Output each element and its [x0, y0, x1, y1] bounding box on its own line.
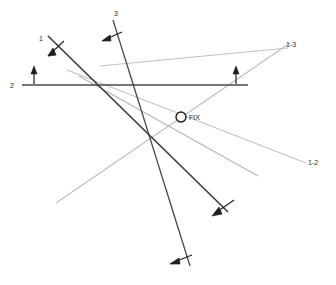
- diagram-svg: 1 2 3 1-3 1-2 FIX: [0, 0, 336, 285]
- line-lop-1-2-advanced: [79, 76, 258, 176]
- arrow-lop-1-end-icon: [212, 200, 234, 216]
- label-lop-1-2: 1-2: [308, 159, 318, 166]
- arrow-lop-2-left-icon: [31, 66, 37, 84]
- lines-group: [22, 20, 306, 266]
- label-lop-2: 2: [10, 82, 14, 89]
- label-lop-1-3: 1-3: [286, 41, 296, 48]
- label-fix: FIX: [189, 114, 200, 121]
- label-lop-3: 3: [114, 10, 118, 17]
- label-lop-1: 1: [39, 35, 43, 42]
- diagram-canvas: 1 2 3 1-3 1-2 FIX: [0, 0, 336, 285]
- line-lop-1-3-advanced: [56, 43, 290, 203]
- fix-point-icon: [176, 112, 186, 122]
- line-lop-3: [113, 20, 190, 266]
